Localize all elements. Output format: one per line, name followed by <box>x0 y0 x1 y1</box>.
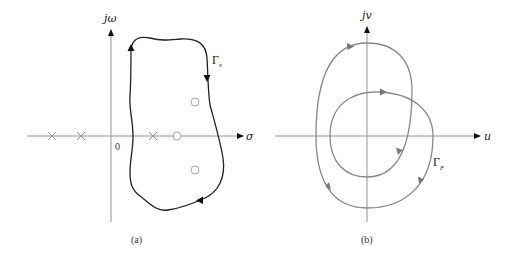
a-imag-axis-label: jω <box>101 12 116 25</box>
b-real-axis-label: u <box>484 130 491 143</box>
b-imag-axis-label: jv <box>359 9 372 22</box>
a-contour-label: Γ <box>212 53 219 67</box>
a-contour-label-subscript: s <box>219 61 222 69</box>
a-real-axis-label: σ <box>246 130 254 143</box>
contour-direction-arrow-icon <box>204 75 211 82</box>
diagram-canvas: jω σ 0 Γ s (a) jv u <box>0 0 512 255</box>
contour-direction-arrow-icon <box>380 89 387 96</box>
contour-direction-arrow-icon <box>128 44 135 51</box>
zero-marker-icon <box>191 166 199 174</box>
b-contour-label: Γ <box>433 155 440 169</box>
panel-a: jω σ 0 Γ s (a) <box>27 12 254 246</box>
b-contour-label-subscript: F <box>439 164 445 172</box>
a-origin-label: 0 <box>115 141 120 152</box>
zero-marker-icon <box>191 98 199 106</box>
panel-b: jv u Γ F (b) <box>275 9 491 246</box>
zero-marker-icon <box>173 132 181 140</box>
a-caption: (a) <box>131 234 142 246</box>
contour-direction-arrow-icon <box>347 43 354 50</box>
contour-direction-arrow-icon <box>196 197 203 205</box>
contour-gamma-f <box>316 43 433 208</box>
b-caption: (b) <box>361 234 373 246</box>
contour-gamma-s <box>130 37 224 210</box>
